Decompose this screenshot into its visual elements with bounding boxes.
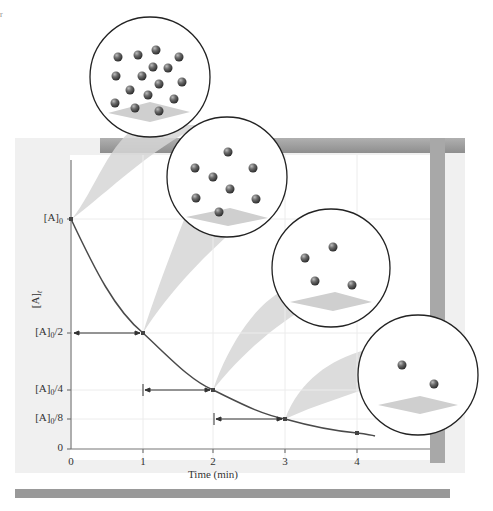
snapshot-circle-t3 [358,315,478,435]
x-tick-2: 2 [210,455,216,467]
x-tick-3: 3 [282,455,288,467]
snapshot-circle-t2 [272,209,390,327]
x-tick-0: 0 [68,455,74,467]
x-tick-1: 1 [140,455,146,467]
y-tick-a0-half: [A]0/2 [35,325,63,340]
x-axis-title: Time (min) [188,468,238,480]
first-order-decay-figure: r [0,0,493,511]
y-axis-title: [A]t [29,291,44,309]
x-tick-4: 4 [354,455,360,467]
snapshot-circle-t0 [90,17,210,137]
y-tick-a0-quarter: [A]0/4 [35,382,63,397]
y-tick-a0: [A]0 [44,211,63,226]
snapshot-circle-t1 [167,117,287,237]
figure-graphic [0,0,493,511]
y-tick-a0-eighth: [A]0/8 [35,411,63,426]
y-tick-zero: 0 [58,441,64,453]
